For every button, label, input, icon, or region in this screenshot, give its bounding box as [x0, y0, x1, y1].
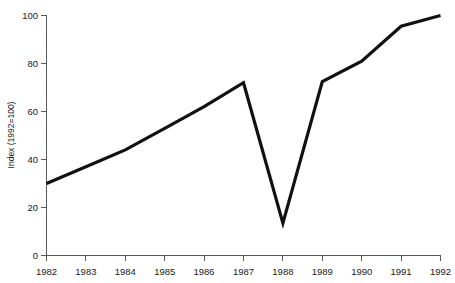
y-tick-label: 20: [27, 202, 38, 213]
x-tick-label: 1985: [154, 266, 175, 277]
x-tick-label: 1989: [312, 266, 333, 277]
x-tick-label: 1982: [36, 266, 57, 277]
y-tick-label: 60: [27, 106, 38, 117]
y-tick-label: 100: [22, 10, 38, 21]
x-axis-ticks: [47, 256, 441, 262]
y-tick-label: 80: [27, 58, 38, 69]
data-series-line: [47, 16, 441, 224]
x-tick-label: 1987: [233, 266, 254, 277]
y-axis-tick-labels: 100 80 60 40 20 0: [22, 10, 38, 261]
y-tick-label: 0: [33, 250, 38, 261]
x-tick-label: 1990: [351, 266, 372, 277]
line-chart: Index (1992=100) 100 80 60 40 20 0: [0, 0, 455, 283]
x-tick-label: 1983: [75, 266, 96, 277]
y-axis-ticks: [41, 16, 47, 256]
x-tick-label: 1988: [272, 266, 293, 277]
x-axis-tick-labels: 1982 1983 1984 1985 1986 1987 1988 1989 …: [36, 266, 451, 277]
y-tick-label: 40: [27, 154, 38, 165]
y-axis-label: Index (1992=100): [6, 101, 16, 168]
x-tick-label: 1992: [430, 266, 451, 277]
x-tick-label: 1984: [115, 266, 136, 277]
chart-canvas: Index (1992=100) 100 80 60 40 20 0: [0, 0, 455, 283]
x-tick-label: 1986: [194, 266, 215, 277]
x-tick-label: 1991: [391, 266, 412, 277]
